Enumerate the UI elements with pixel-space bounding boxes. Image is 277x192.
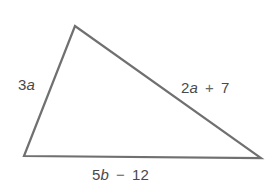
side-label-left-coef: 3 (18, 76, 27, 93)
side-label-bottom-var: b (101, 166, 110, 183)
triangle-figure (0, 0, 277, 192)
side-label-right-operator: + (205, 80, 214, 95)
side-label-right-var: a (190, 79, 199, 96)
side-label-bottom-operator: − (116, 167, 125, 182)
side-label-right-const: 7 (221, 79, 230, 96)
side-label-right-coef: 2 (181, 79, 190, 96)
side-label-bottom-coef: 5 (92, 166, 101, 183)
side-label-right: 2a+7 (181, 80, 230, 95)
side-label-left-var: a (27, 76, 36, 93)
side-label-bottom-const: 12 (132, 166, 149, 183)
side-label-bottom: 5b−12 (92, 167, 149, 182)
side-label-left: 3a (18, 77, 35, 92)
